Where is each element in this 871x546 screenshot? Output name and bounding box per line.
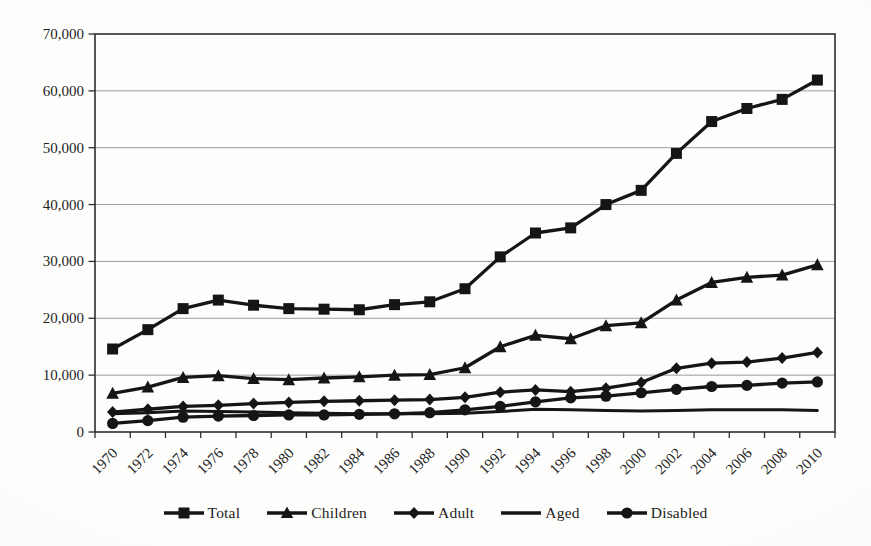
square-marker (812, 75, 823, 86)
circle-marker (177, 412, 188, 423)
circle-marker (107, 418, 118, 429)
circle-marker (706, 381, 717, 392)
x-tick-label: 1996 (546, 444, 579, 477)
legend-label-aged: Aged (545, 504, 579, 522)
y-tick-label: 60,000 (43, 83, 84, 99)
circle-marker (812, 376, 823, 387)
legend-label-children: Children (311, 504, 367, 522)
square-marker (530, 228, 541, 239)
square-marker (600, 199, 611, 210)
x-tick-label: 1974 (159, 444, 192, 477)
square-marker (460, 283, 471, 294)
circle-marker (354, 409, 365, 420)
circle-marker (389, 408, 400, 419)
square-marker (354, 304, 365, 315)
circle-marker (600, 391, 611, 402)
circle-marker (248, 410, 259, 421)
square-marker (248, 300, 259, 311)
circle-marker (318, 409, 329, 420)
x-tick-label: 1992 (476, 445, 509, 478)
x-tick-label: 1990 (441, 445, 474, 478)
square-marker (389, 299, 400, 310)
x-tick-label: 2004 (687, 444, 720, 477)
x-tick-label: 2008 (758, 445, 791, 478)
y-axis: 010,00020,00030,00040,00050,00060,00070,… (43, 26, 95, 440)
diamond-marker-icon (394, 506, 434, 520)
x-tick-label: 2010 (793, 445, 826, 478)
circle-marker (459, 404, 470, 415)
circle-marker (671, 384, 682, 395)
x-tick-label: 1988 (405, 445, 438, 478)
square-marker (671, 148, 682, 159)
square-marker (178, 303, 189, 314)
circle-marker (213, 410, 224, 421)
x-tick-label: 1998 (582, 445, 615, 478)
x-tick-label: 1984 (335, 444, 368, 477)
legend-item-total: Total (164, 504, 241, 522)
y-tick-label: 30,000 (43, 253, 84, 269)
square-marker (142, 324, 153, 335)
plain-line-marker-icon (501, 506, 541, 520)
square-marker (741, 103, 752, 114)
y-tick-label: 50,000 (43, 140, 84, 156)
legend-item-aged: Aged (501, 504, 579, 522)
legend-label-total: Total (208, 504, 241, 522)
legend-item-disabled: Disabled (607, 504, 708, 522)
y-tick-label: 20,000 (43, 310, 84, 326)
x-tick-label: 1970 (88, 445, 121, 478)
x-tick-label: 1994 (511, 444, 544, 477)
circle-marker (741, 380, 752, 391)
legend-label-disabled: Disabled (651, 504, 708, 522)
square-marker-icon (164, 506, 204, 520)
x-tick-label: 1986 (370, 444, 403, 477)
y-tick-label: 40,000 (43, 197, 84, 213)
circle-marker (530, 396, 541, 407)
square-marker (706, 116, 717, 127)
x-axis: 1970197219741976197819801982198419861988… (88, 432, 835, 477)
square-marker (565, 222, 576, 233)
square-marker (424, 296, 435, 307)
square-marker (213, 295, 224, 306)
square-marker (636, 185, 647, 196)
circle-marker (565, 392, 576, 403)
circle-marker (283, 409, 294, 420)
x-tick-label: 1982 (300, 445, 333, 478)
y-tick-label: 70,000 (43, 26, 84, 42)
circle-marker (777, 378, 788, 389)
square-marker (495, 251, 506, 262)
square-marker (777, 94, 788, 105)
x-tick-label: 2000 (617, 445, 650, 478)
x-tick-label: 1980 (264, 445, 297, 478)
triangle-marker-icon (267, 506, 307, 520)
x-tick-label: 2006 (722, 444, 755, 477)
x-tick-label: 2002 (652, 445, 685, 478)
legend-label-adult: Adult (438, 504, 474, 522)
legend-item-adult: Adult (394, 504, 474, 522)
circle-marker (495, 401, 506, 412)
circle-marker (636, 387, 647, 398)
square-marker (283, 303, 294, 314)
x-tick-label: 1972 (123, 445, 156, 478)
y-tick-label: 0 (77, 424, 85, 440)
y-tick-label: 10,000 (43, 367, 84, 383)
chart-legend: Total Children Adult Aged (0, 498, 871, 528)
circle-marker (424, 407, 435, 418)
line-chart: 010,00020,00030,00040,00050,00060,00070,… (0, 0, 871, 496)
legend-item-children: Children (267, 504, 367, 522)
chart-page: 010,00020,00030,00040,00050,00060,00070,… (0, 0, 871, 546)
circle-marker (142, 415, 153, 426)
circle-marker-icon (607, 506, 647, 520)
square-marker (107, 343, 118, 354)
x-tick-label: 1978 (229, 445, 262, 478)
x-tick-label: 1976 (194, 444, 227, 477)
square-marker (319, 304, 330, 315)
